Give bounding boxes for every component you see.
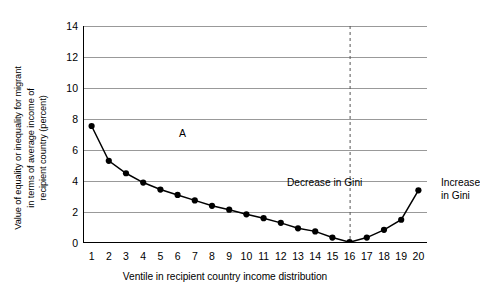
- x-tick-label-1: 1: [89, 250, 95, 262]
- x-tick-label-15: 15: [327, 250, 339, 262]
- gridlines: [83, 27, 427, 244]
- data-point-7: [192, 197, 198, 203]
- x-axis-tick-labels: 1234567891011121314151617181920: [83, 250, 427, 264]
- y-tick-label-2: 2: [56, 207, 78, 218]
- data-point-12: [278, 220, 284, 226]
- x-tick-label-2: 2: [106, 250, 112, 262]
- y-tick-label-4: 4: [56, 176, 78, 187]
- data-point-3: [123, 170, 129, 176]
- data-point-8: [209, 203, 215, 209]
- x-tick-label-18: 18: [378, 250, 390, 262]
- y-tick-label-6: 6: [56, 145, 78, 156]
- x-tick-label-16: 16: [344, 250, 356, 262]
- plot-svg: [83, 26, 427, 243]
- y-axis-title-text: Value of equality or inequality for migr…: [12, 66, 50, 229]
- y-tick-label-10: 10: [56, 83, 78, 94]
- x-axis-title: Ventile in recipient country income dist…: [0, 271, 450, 282]
- data-points: [89, 123, 422, 243]
- y-tick-label-12: 12: [56, 52, 78, 63]
- data-point-6: [175, 192, 181, 198]
- x-tick-label-8: 8: [209, 250, 215, 262]
- x-tick-label-19: 19: [395, 250, 407, 262]
- data-point-2: [106, 158, 112, 164]
- point-a-label: A: [179, 127, 186, 140]
- x-tick-marks: [83, 27, 419, 244]
- decrease-region-label: Decrease in Gini: [287, 177, 362, 190]
- y-tick-label-14: 14: [56, 21, 78, 32]
- plot-area: Decrease in Gini Increase in Gini A: [83, 26, 427, 243]
- data-point-4: [140, 179, 146, 185]
- data-point-9: [226, 207, 232, 213]
- y-axis-tick-labels: 02468101214: [54, 0, 78, 296]
- x-tick-label-4: 4: [140, 250, 146, 262]
- data-point-10: [243, 211, 249, 217]
- x-tick-label-11: 11: [258, 250, 269, 262]
- data-point-11: [261, 215, 267, 221]
- data-point-15: [329, 234, 335, 240]
- data-point-20: [415, 187, 421, 193]
- data-point-19: [398, 217, 404, 223]
- x-tick-label-12: 12: [275, 250, 287, 262]
- data-point-17: [364, 234, 370, 240]
- y-tick-label-0: 0: [56, 238, 78, 249]
- x-tick-label-3: 3: [123, 250, 129, 262]
- data-point-1: [89, 123, 95, 129]
- y-tick-label-8: 8: [56, 114, 78, 125]
- increase-region-label: Increase in Gini: [441, 177, 480, 202]
- x-tick-label-10: 10: [241, 250, 253, 262]
- x-tick-label-7: 7: [192, 250, 198, 262]
- data-point-16: [347, 239, 353, 243]
- x-tick-label-14: 14: [309, 250, 321, 262]
- data-point-5: [157, 186, 163, 192]
- data-point-13: [295, 225, 301, 231]
- axis-frame: [83, 26, 427, 243]
- x-tick-label-9: 9: [226, 250, 232, 262]
- y-axis-title: Value of equality or inequality for migr…: [0, 0, 62, 296]
- x-tick-label-20: 20: [413, 250, 425, 262]
- x-tick-label-5: 5: [157, 250, 163, 262]
- x-tick-label-13: 13: [292, 250, 304, 262]
- data-point-18: [381, 227, 387, 233]
- data-point-14: [312, 228, 318, 234]
- x-tick-label-17: 17: [361, 250, 373, 262]
- x-tick-label-6: 6: [175, 250, 181, 262]
